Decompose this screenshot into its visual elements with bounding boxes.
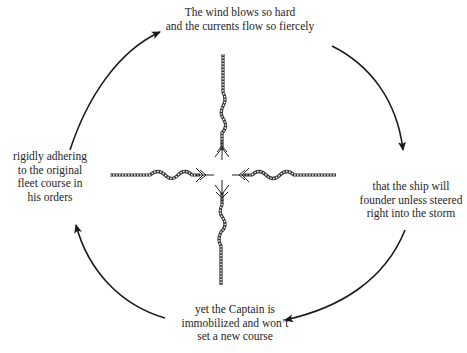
node-left-line-3: fleet course in	[8, 177, 92, 191]
arrow-bottom-to-left	[76, 225, 165, 318]
node-right-line-2: founder unless steered	[355, 194, 467, 208]
node-left-line-1: rigidly adhering	[8, 150, 92, 164]
node-right-line-3: right into the storm	[355, 207, 467, 221]
node-top-text: The wind blows so hard and the currents …	[165, 6, 315, 33]
node-right-text: that the ship will founder unless steere…	[355, 180, 467, 221]
node-left-text: rigidly adhering to the original fleet c…	[8, 150, 92, 204]
node-top-line-1: The wind blows so hard	[165, 6, 315, 20]
node-left-line-4: his orders	[8, 191, 92, 205]
node-bottom-text: yet the Captain is immobilized and won’t…	[165, 303, 305, 344]
node-bottom-line-3: set a new course	[165, 330, 305, 344]
node-right-line-1: that the ship will	[355, 180, 467, 194]
arrow-top-to-right	[332, 46, 403, 150]
rope-graphic	[110, 54, 336, 285]
arrow-left-to-top	[70, 32, 160, 150]
node-bottom-line-1: yet the Captain is	[165, 303, 305, 317]
node-top-line-2: and the currents flow so fiercely	[165, 20, 315, 34]
node-left-line-2: to the original	[8, 164, 92, 178]
node-bottom-line-2: immobilized and won’t	[165, 317, 305, 331]
